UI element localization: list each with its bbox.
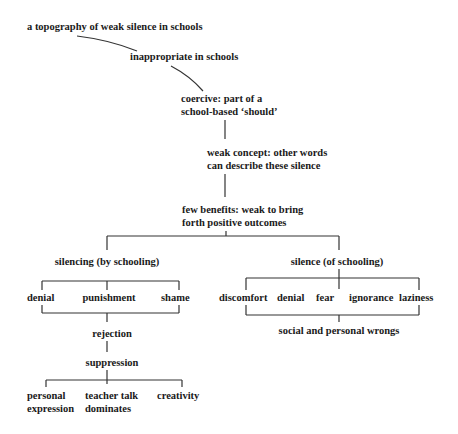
node-suppression: suppression	[86, 356, 139, 369]
node-right-denial: denial	[277, 291, 304, 304]
node-inappropriate: inappropriate in schools	[130, 50, 238, 63]
node-creativity: creativity	[157, 389, 199, 402]
node-coercive-line1: coercive: part of a	[181, 92, 278, 105]
node-social-and-personal-wrongs: social and personal wrongs	[279, 324, 400, 337]
node-coercive: coercive: part of a school-based ‘should…	[181, 92, 278, 118]
node-coercive-line2: school-based ‘should’	[181, 105, 278, 118]
node-teacher-talk-line2: dominates	[85, 402, 138, 415]
node-left-denial: denial	[27, 291, 54, 304]
diagram-title: a topography of weak silence in schools	[27, 20, 203, 33]
node-fear: fear	[316, 291, 334, 304]
node-personal-expression-line2: expression	[27, 402, 74, 415]
node-rejection: rejection	[92, 327, 131, 340]
node-few-benefits-line1: few benefits: weak to bring	[182, 203, 303, 216]
node-few-benefits-line2: forth positive outcomes	[182, 216, 303, 229]
node-teacher-talk-dominates: teacher talk dominates	[85, 389, 138, 415]
node-weak-concept-line1: weak concept: other words	[207, 146, 327, 159]
node-discomfort: discomfort	[219, 291, 267, 304]
topography-diagram: a topography of weak silence in schools …	[0, 0, 458, 434]
node-silencing-by-schooling: silencing (by schooling)	[55, 255, 159, 268]
connector-title-inappropriate	[77, 36, 137, 51]
node-silence-of-schooling: silence (of schooling)	[291, 255, 384, 268]
node-personal-expression: personal expression	[27, 389, 74, 415]
node-personal-expression-line1: personal	[27, 389, 74, 402]
node-punishment: punishment	[82, 291, 135, 304]
connector-inappropriate-coercive	[171, 66, 203, 91]
node-weak-concept-line2: can describe these silence	[207, 159, 327, 172]
node-ignorance: ignorance	[349, 291, 393, 304]
node-laziness: laziness	[399, 291, 433, 304]
node-shame: shame	[161, 291, 190, 304]
node-weak-concept: weak concept: other words can describe t…	[207, 146, 327, 172]
node-teacher-talk-line1: teacher talk	[85, 389, 138, 402]
node-few-benefits: few benefits: weak to bring forth positi…	[182, 203, 303, 229]
